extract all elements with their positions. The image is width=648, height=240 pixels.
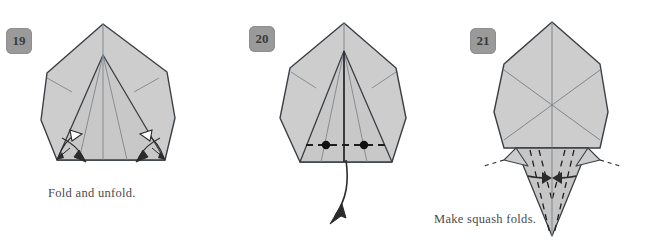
- step-number-badge-19: 19: [6, 28, 32, 54]
- instruction-panel-21: 21 Make squash folds.: [432, 0, 648, 240]
- step-caption-19: Fold and unfold.: [48, 186, 136, 201]
- instruction-panel-19: 19 Fold and unfold.: [0, 0, 216, 240]
- step-number-badge-21: 21: [470, 28, 496, 54]
- step-number-badge-20: 20: [249, 26, 275, 52]
- instruction-panel-20: 20: [216, 0, 432, 240]
- origami-figure-21: [432, 0, 648, 240]
- paper-body-21: [494, 22, 608, 148]
- instruction-sheet: 19 Fold and unfold.: [0, 0, 648, 240]
- pull-arrow-20: [330, 160, 347, 224]
- step-caption-21: Make squash folds.: [434, 212, 536, 227]
- origami-figure-19: [0, 0, 216, 240]
